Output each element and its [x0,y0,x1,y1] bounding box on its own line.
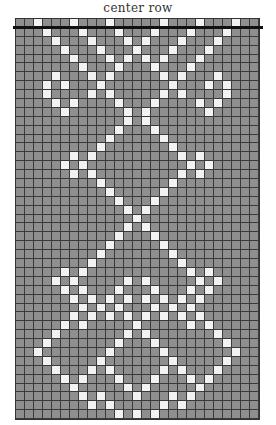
pattern-cell-on [79,321,88,330]
pattern-cell-off [61,126,70,135]
pattern-cell-off [151,143,160,152]
pattern-cell-off [151,81,160,90]
pattern-cell-off [133,72,142,81]
pattern-cell-off [25,72,34,81]
pattern-cell-on [70,55,79,64]
pattern-cell-off [169,72,178,81]
pattern-cell-on [43,357,52,366]
pattern-cell-off [196,37,205,46]
pattern-cell-on [106,295,115,304]
pattern-cell-off [43,170,52,179]
pattern-cell-off [133,188,142,197]
pattern-cell-off [241,223,250,232]
pattern-cell-on [124,117,133,126]
pattern-cell-off [34,117,43,126]
pattern-cell-off [43,410,52,419]
pattern-cell-off [151,330,160,339]
pattern-cell-off [232,357,241,366]
pattern-cell-on [151,375,160,384]
pattern-cell-on [79,268,88,277]
pattern-cell-off [106,63,115,72]
pattern-cell-off [232,126,241,135]
pattern-cell-off [169,206,178,215]
pattern-cell-off [43,401,52,410]
pattern-cell-off [160,277,169,286]
pattern-cell-off [16,161,25,170]
pattern-cell-off [223,268,232,277]
pattern-cell-off [205,170,214,179]
pattern-cell-off [79,348,88,357]
pattern-cell-on [52,72,61,81]
pattern-cell-off [187,99,196,108]
pattern-cell-on [115,28,124,37]
pattern-cell-off [160,321,169,330]
pattern-cell-off [223,304,232,313]
pattern-cell-off [223,108,232,117]
pattern-cell-off [115,81,124,90]
pattern-cell-on [79,28,88,37]
pattern-cell-off [178,215,187,224]
pattern-cell-off [34,304,43,313]
pattern-cell-off [79,312,88,321]
pattern-cell-off [250,206,259,215]
pattern-cell-off [151,259,160,268]
pattern-cell-off [97,259,106,268]
pattern-cell-off [79,55,88,64]
pattern-cell-off [79,339,88,348]
pattern-cell-off [133,152,142,161]
pattern-cell-off [97,63,106,72]
pattern-cell-off [43,259,52,268]
pattern-cell-off [124,401,133,410]
pattern-cell-off [187,357,196,366]
pattern-cell-off [43,366,52,375]
pattern-cell-off [169,28,178,37]
pattern-cell-off [88,215,97,224]
pattern-cell-off [205,259,214,268]
pattern-cell-off [142,259,151,268]
pattern-cell-off [124,179,133,188]
pattern-cell-off [43,179,52,188]
pattern-cell-off [169,170,178,179]
pattern-cell-off [241,268,250,277]
pattern-cell-off [205,117,214,126]
pattern-cell-off [250,188,259,197]
pattern-cell-off [151,206,160,215]
pattern-cell-off [25,295,34,304]
pattern-cell-off [142,375,151,384]
pattern-cell-off [79,241,88,250]
pattern-cell-off [34,357,43,366]
pattern-cell-off [70,108,79,117]
pattern-cell-off [79,188,88,197]
pattern-cell-off [241,28,250,37]
pattern-cell-off [88,250,97,259]
pattern-cell-off [133,90,142,99]
pattern-cell-off [43,55,52,64]
pattern-cell-on [223,90,232,99]
pattern-cell-off [250,108,259,117]
pattern-cell-on [79,304,88,313]
pattern-cell-off [160,117,169,126]
pattern-cell-on [151,126,160,135]
pattern-cell-on [223,357,232,366]
pattern-cell-off [196,188,205,197]
pattern-cell-off [124,170,133,179]
pattern-cell-off [124,28,133,37]
pattern-cell-off [160,63,169,72]
pattern-cell-off [187,366,196,375]
pattern-cell-off [223,232,232,241]
pattern-cell-off [52,268,61,277]
pattern-cell-off [88,81,97,90]
pattern-cell-off [142,215,151,224]
pattern-cell-off [196,392,205,401]
pattern-cell-on [88,259,97,268]
pattern-cell-off [178,268,187,277]
pattern-cell-off [43,108,52,117]
pattern-cell-off [250,232,259,241]
pattern-cell-off [178,135,187,144]
pattern-cell-off [169,384,178,393]
pattern-cell-off [133,357,142,366]
pattern-cell-off [34,330,43,339]
pattern-cell-off [142,81,151,90]
pattern-cell-off [241,304,250,313]
pattern-cell-off [232,152,241,161]
